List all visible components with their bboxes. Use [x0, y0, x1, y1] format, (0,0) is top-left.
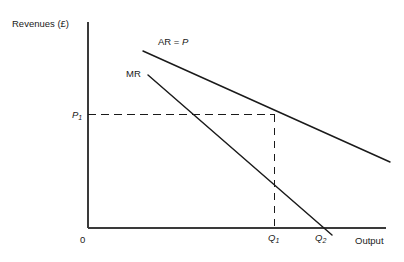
- diagram-canvas: [0, 0, 404, 262]
- x-axis-label: Output: [355, 236, 384, 246]
- mr-curve-label: MR: [126, 69, 141, 79]
- price-axis-marker-label: P1: [72, 110, 82, 120]
- economics-diagram: Revenues (£) Output 0 AR = P MR P1 Q1 Q2: [0, 0, 404, 262]
- quantity-1-axis-marker-label: Q1: [268, 233, 279, 243]
- quantity-1-marker-subscript: 1: [275, 237, 279, 244]
- quantity-2-axis-marker-label: Q2: [315, 233, 326, 243]
- ar-curve-label: AR = P: [158, 37, 188, 47]
- ar-curve-label-price: P: [182, 36, 188, 47]
- mr-curve: [148, 75, 332, 235]
- y-axis-label: Revenues (£): [12, 19, 69, 29]
- ar-curve-label-text: AR: [158, 36, 171, 47]
- price-axis-marker-subscript: 1: [78, 114, 82, 121]
- quantity-2-marker-subscript: 2: [322, 237, 326, 244]
- origin-label: 0: [80, 235, 85, 245]
- ar-curve: [143, 51, 390, 162]
